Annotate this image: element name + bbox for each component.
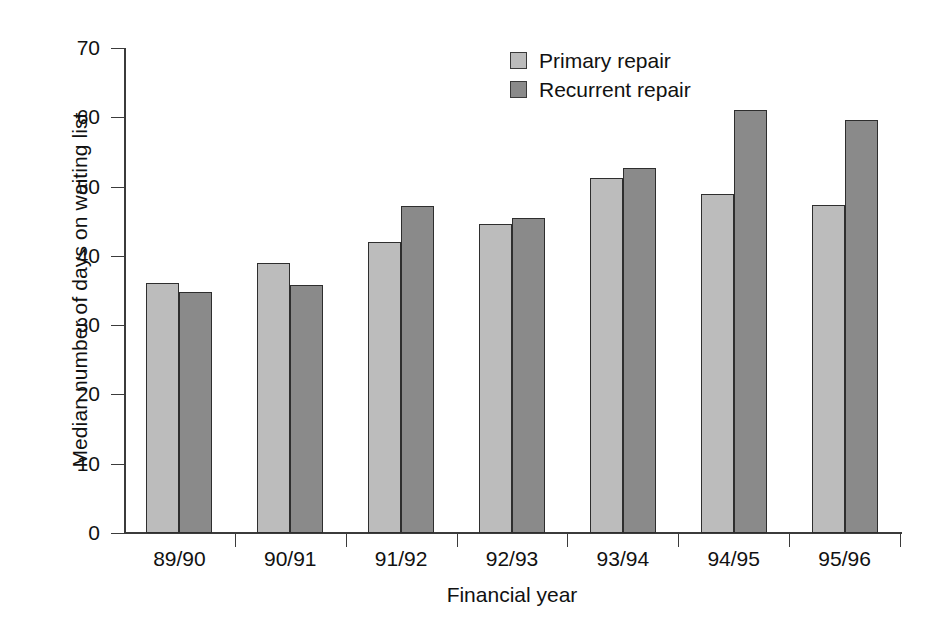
x-axis-tick bbox=[900, 534, 901, 547]
x-axis-tick-label: 94/95 bbox=[679, 548, 789, 569]
y-axis-tick bbox=[111, 325, 124, 326]
bar-recurrent-repair bbox=[734, 110, 767, 533]
x-axis-tick-label: 90/91 bbox=[235, 548, 345, 569]
y-axis-tick bbox=[111, 256, 124, 257]
chart-legend: Primary repair Recurrent repair bbox=[510, 46, 691, 104]
x-axis-tick-label: 91/92 bbox=[346, 548, 456, 569]
x-axis-tick bbox=[789, 534, 790, 547]
y-axis-title: Median number of days on waiting list bbox=[68, 60, 92, 520]
y-axis-tick bbox=[111, 117, 124, 118]
bar-chart: Median number of days on waiting list Pr… bbox=[0, 0, 941, 636]
y-axis-tick bbox=[111, 533, 124, 534]
bar-recurrent-repair bbox=[512, 218, 545, 533]
legend-label-recurrent-repair: Recurrent repair bbox=[539, 79, 691, 100]
y-axis-tick bbox=[111, 48, 124, 49]
plot-area bbox=[124, 48, 900, 533]
x-axis-tick bbox=[235, 534, 236, 547]
x-axis-tick bbox=[567, 534, 568, 547]
bar-recurrent-repair bbox=[401, 206, 434, 533]
bar-primary-repair bbox=[146, 283, 179, 533]
bar-recurrent-repair bbox=[623, 168, 656, 533]
y-axis-tick-label: 60 bbox=[38, 106, 100, 127]
primary-repair-swatch bbox=[510, 52, 527, 69]
y-axis-tick-label: 50 bbox=[38, 176, 100, 197]
y-axis-tick-label: 40 bbox=[38, 245, 100, 266]
recurrent-repair-swatch bbox=[510, 81, 527, 98]
legend-label-primary-repair: Primary repair bbox=[539, 50, 671, 71]
bar-primary-repair bbox=[590, 178, 623, 533]
x-axis-tick bbox=[457, 534, 458, 547]
x-axis-tick-label: 92/93 bbox=[457, 548, 567, 569]
bar-recurrent-repair bbox=[845, 120, 878, 533]
bar-primary-repair bbox=[257, 263, 290, 533]
x-axis-tick-label: 93/94 bbox=[568, 548, 678, 569]
y-axis-tick bbox=[111, 464, 124, 465]
bar-primary-repair bbox=[479, 224, 512, 533]
x-axis-tick bbox=[678, 534, 679, 547]
x-axis-tick-label: 95/96 bbox=[790, 548, 900, 569]
x-axis-tick-label: 89/90 bbox=[124, 548, 234, 569]
y-axis-tick-label: 10 bbox=[38, 453, 100, 474]
legend-item-recurrent-repair: Recurrent repair bbox=[510, 75, 691, 104]
bar-primary-repair bbox=[701, 194, 734, 533]
y-axis-tick bbox=[111, 394, 124, 395]
y-axis-tick bbox=[111, 187, 124, 188]
y-axis-tick-label: 0 bbox=[38, 522, 100, 543]
legend-item-primary-repair: Primary repair bbox=[510, 46, 691, 75]
bar-primary-repair bbox=[368, 242, 401, 533]
bar-recurrent-repair bbox=[290, 285, 323, 533]
x-axis-tick bbox=[346, 534, 347, 547]
y-axis-tick-label: 70 bbox=[38, 37, 100, 58]
x-axis-title: Financial year bbox=[124, 583, 900, 607]
y-axis-tick-label: 30 bbox=[38, 314, 100, 335]
y-axis-tick-label: 20 bbox=[38, 383, 100, 404]
bar-recurrent-repair bbox=[179, 292, 212, 533]
bar-primary-repair bbox=[812, 205, 845, 533]
